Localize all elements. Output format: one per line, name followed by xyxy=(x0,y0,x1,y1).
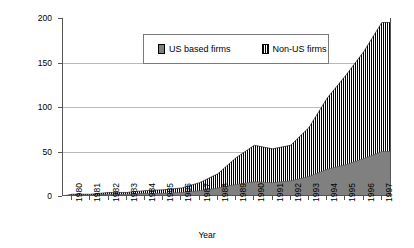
x-tick-label: 1980 xyxy=(75,183,84,202)
x-tick-label: 1982 xyxy=(112,183,121,202)
x-tick-label: 1992 xyxy=(294,183,303,202)
x-tick-label: 1988 xyxy=(221,183,230,202)
x-tick-mark xyxy=(344,196,345,200)
x-tick-mark xyxy=(162,196,163,200)
x-tick-label: 1994 xyxy=(330,183,339,202)
y-tick-label: 100 xyxy=(22,103,52,112)
x-tick-mark xyxy=(381,196,382,200)
x-tick-label: 1996 xyxy=(367,183,376,202)
x-tick-label: 1987 xyxy=(203,183,212,202)
x-tick-mark xyxy=(144,196,145,200)
x-tick-label: 1986 xyxy=(184,183,193,202)
chart-legend: US based firms Non-US firms xyxy=(143,34,329,64)
patents-filed-chart: Patents Filed (Number/Year) 050100150200… xyxy=(0,0,414,248)
x-tick-mark xyxy=(363,196,364,200)
x-tick-label: 1989 xyxy=(239,183,248,202)
x-tick-mark xyxy=(71,196,72,200)
x-axis-title: Year xyxy=(0,230,414,240)
plot-frame-right xyxy=(390,18,391,197)
x-tick-mark xyxy=(180,196,181,200)
x-tick-mark xyxy=(108,196,109,200)
legend-label-us-based-firms: US based firms xyxy=(169,44,231,54)
x-tick-label: 1995 xyxy=(348,183,357,202)
y-tick-label: 150 xyxy=(22,59,52,68)
x-tick-label: 1993 xyxy=(312,183,321,202)
legend-item-us-based-firms: US based firms xyxy=(158,44,231,54)
x-tick-mark xyxy=(308,196,309,200)
legend-label-non-us-firms: Non-US firms xyxy=(273,44,327,54)
x-tick-mark xyxy=(326,196,327,200)
x-tick-mark xyxy=(272,196,273,200)
y-tick-mark xyxy=(58,196,62,197)
x-tick-mark xyxy=(126,196,127,200)
x-tick-mark xyxy=(199,196,200,200)
x-tick-mark xyxy=(290,196,291,200)
solid-grey-swatch-icon xyxy=(158,44,165,54)
x-tick-label: 1997 xyxy=(385,183,394,202)
x-tick-mark xyxy=(89,196,90,200)
vertical-hatch-swatch-icon xyxy=(262,44,269,54)
x-tick-label: 1983 xyxy=(130,183,139,202)
x-tick-label: 1984 xyxy=(148,183,157,202)
x-tick-mark xyxy=(217,196,218,200)
x-tick-label: 1981 xyxy=(93,183,102,202)
y-tick-label: 50 xyxy=(22,148,52,157)
x-tick-label: 1991 xyxy=(276,183,285,202)
x-tick-label: 1985 xyxy=(166,183,175,202)
y-tick-label: 200 xyxy=(22,14,52,23)
x-tick-mark xyxy=(253,196,254,200)
legend-item-non-us-firms: Non-US firms xyxy=(262,44,327,54)
y-tick-label: 0 xyxy=(22,192,52,201)
x-tick-label: 1990 xyxy=(257,183,266,202)
x-tick-mark xyxy=(235,196,236,200)
